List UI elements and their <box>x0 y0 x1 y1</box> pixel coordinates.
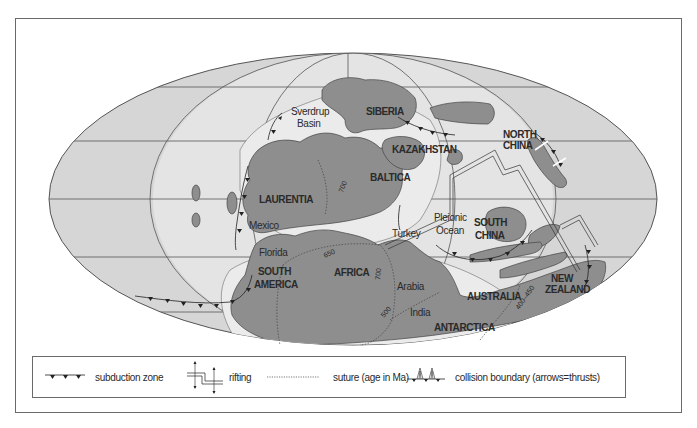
label-africa: AFRICA <box>334 267 370 278</box>
label-new-zealand-1: NEW <box>551 273 574 284</box>
label-india: India <box>410 307 431 318</box>
label-pleionic-2: Ocean <box>436 225 464 236</box>
label-south-america-1: SOUTH <box>258 266 291 277</box>
label-mexico: Mexico <box>249 220 280 231</box>
collision-boundary-icon <box>405 365 447 389</box>
legend-label-rifting: rifting <box>229 372 251 383</box>
label-laurentia: LAURENTIA <box>259 194 313 205</box>
legend-label-collision: collision boundary (arrows=thrusts) <box>455 372 600 383</box>
subduction-zone-icon <box>43 370 87 384</box>
label-turkey: Turkey <box>392 228 421 239</box>
label-florida: Florida <box>259 247 288 258</box>
legend-item-rifting: rifting <box>185 357 251 397</box>
legend-item-subduction: subduction zone <box>43 357 163 397</box>
legend-item-suture: suture (age in Ma) <box>265 357 409 397</box>
label-australia: AUSTRALIA <box>467 291 521 302</box>
map-legend: subduction zone rifting suture (age in M… <box>32 356 626 398</box>
suture-age-c: 700 <box>374 268 382 280</box>
rifting-icon <box>185 360 225 394</box>
label-arabia: Arabia <box>397 281 425 292</box>
label-north-china-1: NORTH <box>503 129 537 140</box>
legend-label-suture: suture (age in Ma) <box>333 372 409 383</box>
label-north-china-2: CHINA <box>503 140 533 151</box>
label-kazakhstan: KAZAKHSTAN <box>392 144 457 155</box>
label-south-china-2: CHINA <box>475 230 505 241</box>
suture-icon <box>265 373 321 381</box>
label-sverdrup-1: Sverdrup <box>291 106 330 117</box>
label-new-zealand-2: ZEALAND <box>545 284 590 295</box>
label-antarctica: ANTARCTICA <box>434 322 495 333</box>
legend-label-subduction: subduction zone <box>95 372 163 383</box>
label-pleionic-1: Pleionic <box>434 212 467 223</box>
legend-item-collision: collision boundary (arrows=thrusts) <box>405 357 600 397</box>
label-siberia: SIBERIA <box>366 106 404 117</box>
label-baltica: BALTICA <box>370 172 411 183</box>
label-south-america-2: AMERICA <box>254 279 298 290</box>
label-south-china-1: SOUTH <box>474 217 507 228</box>
label-sverdrup-2: Basin <box>297 118 321 129</box>
